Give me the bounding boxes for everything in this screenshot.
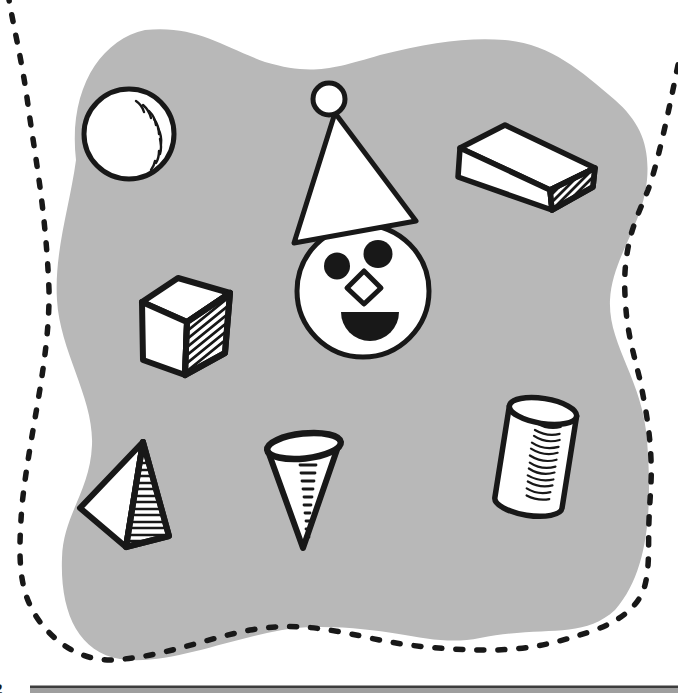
cylinder-illustration (493, 393, 579, 520)
footer-bar-top-edge (30, 686, 678, 689)
hat-pompom (313, 83, 345, 115)
left-eye (324, 253, 350, 280)
footer-bar-fill (30, 689, 678, 693)
sphere-illustration (84, 89, 174, 179)
page-number: 2 (0, 681, 3, 693)
page: 2 (0, 0, 678, 693)
illustration-canvas: 2 (0, 0, 678, 693)
right-eye (364, 240, 393, 268)
footer-bar (30, 686, 678, 693)
